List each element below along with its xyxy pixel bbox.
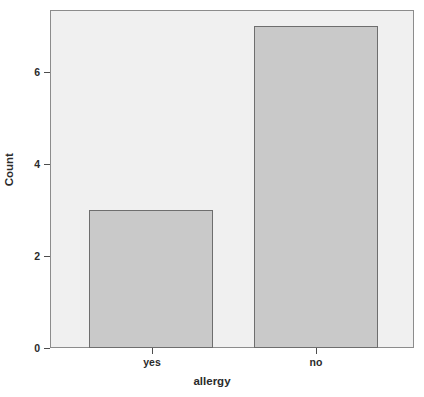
y-tick-mark-0: [44, 348, 50, 349]
x-tick-label-yes: yes: [112, 357, 192, 368]
x-tick-label-no: no: [276, 357, 356, 368]
y-tick-mark-2: [44, 256, 50, 257]
x-tick-mark-yes: [152, 348, 153, 354]
y-axis-title: Count: [4, 130, 16, 210]
y-tick-label-6: 6: [0, 67, 40, 78]
y-tick-label-0: 0: [0, 343, 40, 354]
y-tick-mark-6: [44, 72, 50, 73]
bar-yes[interactable]: [89, 210, 213, 348]
x-axis-title: allergy: [0, 376, 424, 388]
x-tick-mark-no: [316, 348, 317, 354]
y-tick-label-2: 2: [0, 251, 40, 262]
bar-no[interactable]: [254, 26, 378, 348]
y-tick-mark-4: [44, 164, 50, 165]
bar-chart-figure: 0 2 4 6 yes no allergy Count: [0, 0, 424, 397]
